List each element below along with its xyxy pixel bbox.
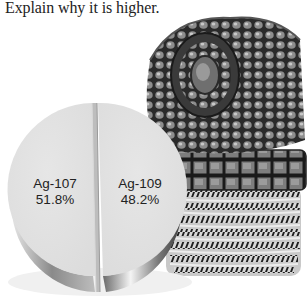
chart-illustration — [0, 0, 307, 301]
isotope-name: Ag-109 — [110, 176, 170, 192]
isotope-percent: 51.8% — [25, 192, 85, 208]
isotope-name: Ag-107 — [25, 176, 85, 192]
isotope-percent: 48.2% — [110, 192, 170, 208]
beaded-cuff-bracelet — [147, 17, 305, 153]
slice-label-ag109: Ag-109 48.2% — [110, 176, 170, 208]
slice-label-ag107: Ag-107 51.8% — [25, 176, 85, 208]
